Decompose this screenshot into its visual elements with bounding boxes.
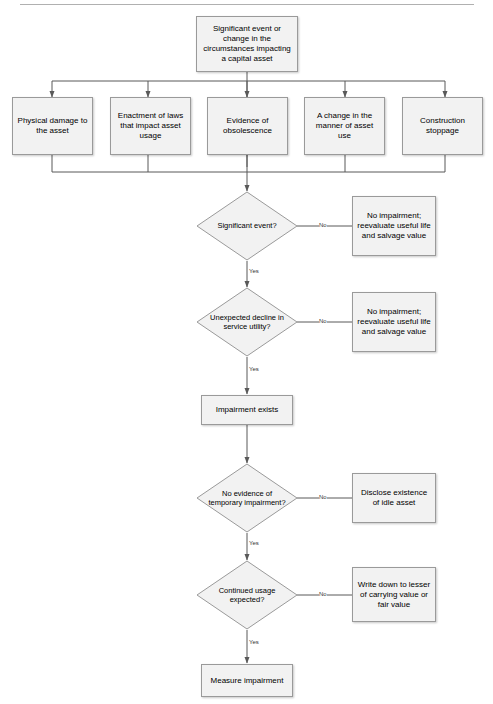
edge-label-no-1: No xyxy=(319,222,327,228)
node-label: Impairment exists xyxy=(202,405,292,415)
node-label-wrap: Significant event? xyxy=(197,192,297,260)
node-label: Write down to lesser of carrying value o… xyxy=(353,580,435,610)
node-disclose-idle-asset: Disclose existence of idle asset xyxy=(352,473,436,523)
edge-label-yes-2: Yes xyxy=(249,366,259,372)
node-label: Significant event or change in the circu… xyxy=(197,24,297,64)
node-evidence-of-obsolescence: Evidence of obsolescence xyxy=(207,97,288,155)
node-label: Disclose existence of idle asset xyxy=(353,488,435,508)
node-significant-event-trigger: Significant event or change in the circu… xyxy=(196,16,298,72)
node-write-down: Write down to lesser of carrying value o… xyxy=(352,567,436,622)
node-label: A change in the manner of asset use xyxy=(305,111,384,141)
edge-label-yes-4: Yes xyxy=(249,639,259,645)
node-no-impairment-1: No impairment; reevaluate useful life an… xyxy=(352,196,436,256)
node-label: Measure impairment xyxy=(202,676,292,686)
edge-label-no-4: No xyxy=(319,591,327,597)
node-change-in-manner-of-use: A change in the manner of asset use xyxy=(304,97,385,155)
node-label: Significant event? xyxy=(208,221,286,230)
node-label: Continued usage expected? xyxy=(208,586,286,604)
node-label: Evidence of obsolescence xyxy=(208,116,287,136)
node-physical-damage: Physical damage to the asset xyxy=(12,97,93,155)
node-unexpected-decline-decision: Unexpected decline in service utility? xyxy=(197,288,297,356)
node-label-wrap: Unexpected decline in service utility? xyxy=(197,288,297,356)
edge-label-no-3: No xyxy=(319,494,327,500)
edge-label-yes-1: Yes xyxy=(249,268,259,274)
node-label: No impairment; reevaluate useful life an… xyxy=(353,307,435,337)
node-label-wrap: No evidence of temporary impairment? xyxy=(197,464,297,532)
node-label: Enactment of laws that impact asset usag… xyxy=(111,111,190,141)
node-label: Physical damage to the asset xyxy=(13,116,92,136)
header-divider xyxy=(20,4,474,5)
node-label: No impairment; reevaluate useful life an… xyxy=(353,211,435,241)
node-enactment-of-laws: Enactment of laws that impact asset usag… xyxy=(110,97,191,155)
node-continued-usage-decision: Continued usage expected? xyxy=(197,561,297,629)
edge-label-no-2: No xyxy=(319,318,327,324)
node-label-wrap: Continued usage expected? xyxy=(197,561,297,629)
flowchart-page: Significant event or change in the circu… xyxy=(0,0,493,704)
node-impairment-exists: Impairment exists xyxy=(201,395,293,425)
node-construction-stoppage: Construction stoppage xyxy=(402,97,483,155)
node-label: No evidence of temporary impairment? xyxy=(208,489,286,507)
node-no-impairment-2: No impairment; reevaluate useful life an… xyxy=(352,292,436,352)
node-label: Unexpected decline in service utility? xyxy=(208,313,286,331)
node-significant-event-decision: Significant event? xyxy=(197,192,297,260)
edge-label-yes-3: Yes xyxy=(249,540,259,546)
node-measure-impairment: Measure impairment xyxy=(201,664,293,697)
node-label: Construction stoppage xyxy=(403,116,482,136)
node-no-evidence-temporary-decision: No evidence of temporary impairment? xyxy=(197,464,297,532)
